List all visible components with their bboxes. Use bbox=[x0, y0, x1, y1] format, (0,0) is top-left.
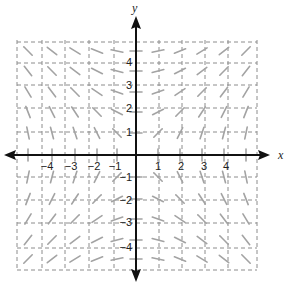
x-tick-label: −4 bbox=[41, 160, 54, 172]
slope-segment bbox=[24, 47, 32, 55]
slope-segment bbox=[47, 255, 56, 262]
slope-segment bbox=[48, 87, 55, 97]
slope-segment bbox=[174, 49, 185, 53]
slope-field-diagram: x y −4−3−2−112344321−1−2−3−4 bbox=[0, 0, 287, 291]
slope-segment bbox=[93, 108, 101, 116]
slope-segment bbox=[92, 237, 103, 242]
slope-segment bbox=[48, 236, 56, 244]
slope-segment bbox=[48, 214, 55, 224]
slope-segment bbox=[71, 88, 79, 96]
slope-segment bbox=[175, 89, 185, 96]
y-tick-label: −2 bbox=[119, 194, 132, 206]
slope-segment bbox=[25, 87, 31, 97]
x-tick-label: 3 bbox=[201, 160, 207, 172]
slope-segment bbox=[152, 70, 164, 73]
x-tick-label: 1 bbox=[155, 160, 161, 172]
slope-segment bbox=[219, 47, 228, 54]
slope-segment bbox=[92, 89, 102, 96]
slope-segment bbox=[174, 257, 185, 261]
y-tick-label: −3 bbox=[119, 216, 132, 228]
slope-segment bbox=[152, 50, 164, 52]
slope-segment bbox=[70, 236, 80, 243]
y-tick-label: 3 bbox=[126, 79, 132, 91]
y-tick-label: 4 bbox=[126, 56, 132, 68]
slope-segment bbox=[51, 127, 54, 139]
slope-segment bbox=[242, 66, 249, 75]
slope-segment bbox=[111, 90, 122, 94]
slope-segment bbox=[24, 66, 31, 75]
slope-segment bbox=[72, 194, 79, 204]
x-tick-label: 4 bbox=[223, 160, 229, 172]
slope-segment bbox=[112, 109, 123, 114]
slope-segment bbox=[243, 87, 249, 97]
slope-segment bbox=[220, 236, 228, 244]
slope-segment bbox=[92, 68, 103, 73]
x-tick-label: −3 bbox=[65, 160, 78, 172]
slope-segment bbox=[91, 257, 102, 261]
slope-segment bbox=[152, 90, 163, 94]
slope-segment bbox=[71, 215, 79, 223]
slope-segment bbox=[92, 216, 102, 223]
x-axis-label: x bbox=[277, 148, 284, 162]
slope-segment bbox=[111, 70, 123, 73]
x-tick-label: −2 bbox=[88, 160, 101, 172]
slope-segment bbox=[26, 193, 30, 204]
slope-segment bbox=[197, 256, 207, 262]
slope-segment bbox=[152, 239, 164, 242]
slope-segment bbox=[223, 127, 226, 139]
slope-segment bbox=[199, 194, 206, 204]
slope-segment bbox=[93, 195, 101, 203]
y-tick-label: 2 bbox=[126, 102, 132, 114]
slope-segment bbox=[24, 235, 31, 244]
slope-segment bbox=[111, 50, 123, 52]
axes: x y bbox=[4, 1, 284, 282]
slope-segment bbox=[244, 193, 248, 204]
slope-segment bbox=[70, 256, 80, 262]
slope-segment bbox=[242, 255, 250, 263]
slope-segment bbox=[175, 216, 185, 223]
slope-segment bbox=[242, 235, 249, 244]
slope-segment bbox=[176, 195, 184, 203]
slope-segment bbox=[221, 194, 226, 205]
slope-segment bbox=[152, 217, 163, 221]
slope-segment bbox=[153, 196, 164, 201]
slope-segment bbox=[153, 109, 164, 114]
slope-segment bbox=[70, 48, 80, 54]
slope-segment bbox=[154, 129, 162, 137]
x-tick-label: 2 bbox=[178, 160, 184, 172]
slope-segment bbox=[220, 87, 227, 97]
slope-segment bbox=[200, 127, 204, 138]
slope-segment bbox=[27, 127, 29, 139]
slope-segment bbox=[111, 258, 123, 260]
slope-segment bbox=[219, 255, 228, 262]
slope-segment bbox=[197, 48, 207, 54]
slope-segment bbox=[70, 67, 80, 74]
slope-segment bbox=[91, 49, 102, 53]
y-tick-label: 1 bbox=[126, 126, 132, 138]
y-tick-label: −4 bbox=[119, 241, 132, 253]
slope-segment bbox=[175, 237, 186, 242]
slope-segment bbox=[220, 67, 228, 75]
slope-segment bbox=[94, 128, 99, 139]
slope-segment bbox=[47, 47, 56, 54]
slope-segment bbox=[73, 127, 77, 138]
slope-segment bbox=[176, 108, 184, 116]
slope-segment bbox=[220, 214, 227, 224]
slope-segment bbox=[245, 127, 247, 139]
slope-segment bbox=[175, 68, 186, 73]
y-tick-label: −1 bbox=[119, 171, 132, 183]
slope-segment bbox=[242, 47, 250, 55]
slope-segment bbox=[245, 171, 247, 183]
y-axis-label: y bbox=[131, 1, 138, 15]
slope-segment bbox=[24, 255, 32, 263]
slope-segment bbox=[48, 67, 56, 75]
slope-segment bbox=[152, 258, 164, 260]
slope-segment bbox=[49, 194, 54, 205]
